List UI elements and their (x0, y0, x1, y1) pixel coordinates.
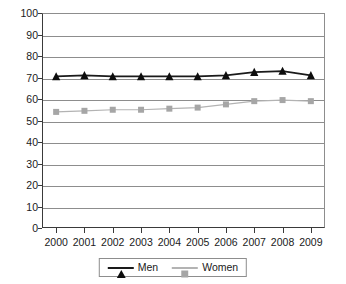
chart-legend: Men Women (99, 258, 247, 277)
y-tick-label: 70 (10, 73, 38, 83)
x-tick-mark (84, 228, 85, 233)
legend-label-women: Women (202, 261, 238, 273)
x-tick-mark (198, 228, 199, 233)
women-line-icon (172, 262, 198, 273)
y-tick-mark (38, 99, 42, 100)
y-tick-mark (38, 142, 42, 143)
triangle-marker-icon (117, 264, 126, 282)
x-tick-mark (283, 228, 284, 233)
x-tick-mark (141, 228, 142, 233)
y-tick-label: 60 (10, 94, 38, 104)
y-tick-mark (38, 121, 42, 122)
legend-entry-women: Women (172, 261, 238, 273)
x-tick-label: 2009 (291, 236, 331, 248)
y-tick-label: 20 (10, 180, 38, 190)
y-tick-label: 50 (10, 116, 38, 126)
y-tick-label: 30 (10, 159, 38, 169)
y-tick-mark (38, 13, 42, 14)
gridline (43, 143, 324, 144)
y-tick-label: 100 (10, 8, 38, 18)
y-tick-mark (38, 228, 42, 229)
y-tick-mark (38, 78, 42, 79)
gridline (43, 186, 324, 187)
gridline (43, 122, 324, 123)
gridline (43, 36, 324, 37)
plot-area (42, 13, 325, 228)
legend-label-men: Men (138, 261, 158, 273)
y-tick-label: 40 (10, 137, 38, 147)
gridline (43, 57, 324, 58)
y-tick-mark (38, 207, 42, 208)
y-tick-mark (38, 164, 42, 165)
legend-entry-men: Men (108, 261, 158, 273)
y-tick-label: 80 (10, 51, 38, 61)
x-tick-mark (226, 228, 227, 233)
x-tick-mark (169, 228, 170, 233)
x-tick-mark (254, 228, 255, 233)
line-chart: 0102030405060708090100 20002001200220032… (0, 0, 346, 284)
square-marker-icon (181, 264, 189, 282)
gridline (43, 100, 324, 101)
y-tick-label: 90 (10, 30, 38, 40)
y-tick-mark (38, 35, 42, 36)
x-tick-mark (113, 228, 114, 233)
y-tick-label: 0 (10, 223, 38, 233)
x-tick-mark (56, 228, 57, 233)
gridline (43, 208, 324, 209)
y-tick-mark (38, 185, 42, 186)
gridline (43, 165, 324, 166)
x-tick-mark (311, 228, 312, 233)
y-tick-mark (38, 56, 42, 57)
y-tick-label: 10 (10, 202, 38, 212)
gridline (43, 79, 324, 80)
men-line-icon (108, 262, 134, 273)
